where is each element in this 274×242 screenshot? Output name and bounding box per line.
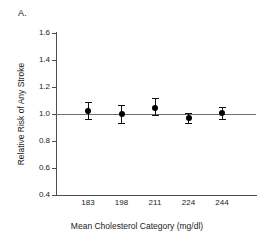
confidence-interval-cap-upper bbox=[85, 102, 92, 103]
y-axis-tick-mark bbox=[52, 114, 56, 115]
y-axis-tick-label: 1.6 bbox=[39, 29, 50, 37]
data-point-marker bbox=[186, 115, 192, 121]
confidence-interval-cap-lower bbox=[85, 119, 92, 120]
x-axis-tick-label: 244 bbox=[215, 199, 228, 207]
y-axis-tick-mark bbox=[52, 87, 56, 88]
x-axis-line bbox=[56, 195, 257, 196]
plot-area: 0.40.60.81.01.21.41.6 bbox=[56, 33, 256, 195]
y-axis-tick-mark bbox=[52, 60, 56, 61]
confidence-interval-cap-lower bbox=[118, 123, 125, 124]
confidence-interval-cap-lower bbox=[219, 119, 226, 120]
x-axis-title: Mean Cholesterol Category (mg/dl) bbox=[0, 221, 274, 231]
x-axis-tick-label: 224 bbox=[182, 199, 195, 207]
confidence-interval-cap-upper bbox=[118, 105, 125, 106]
x-axis-tick-label: 198 bbox=[115, 199, 128, 207]
y-axis-tick-label: 1.0 bbox=[39, 110, 50, 118]
data-point-marker bbox=[119, 111, 125, 117]
y-axis-tick-mark bbox=[52, 168, 56, 169]
y-axis-tick-label: 1.4 bbox=[39, 56, 50, 64]
x-axis-tick-label: 183 bbox=[81, 199, 94, 207]
data-point-marker bbox=[152, 105, 158, 111]
data-point-marker bbox=[219, 110, 225, 116]
y-axis-tick-mark bbox=[52, 195, 56, 196]
y-axis-tick-label: 1.2 bbox=[39, 83, 50, 91]
confidence-interval-cap-lower bbox=[185, 123, 192, 124]
panel-label: A. bbox=[18, 8, 27, 18]
confidence-interval-cap-upper bbox=[219, 107, 226, 108]
figure-panel-a: A. 0.40.60.81.01.21.41.6 183198211224244… bbox=[0, 0, 274, 242]
x-axis-tick-label: 211 bbox=[149, 199, 162, 207]
y-axis-tick-mark bbox=[52, 141, 56, 142]
y-axis-tick-label: 0.8 bbox=[39, 137, 50, 145]
confidence-interval-cap-upper bbox=[185, 113, 192, 114]
y-axis-tick-mark bbox=[52, 33, 56, 34]
y-axis-title: Relative Risk of Any Stroke bbox=[14, 33, 28, 195]
confidence-interval-cap-upper bbox=[152, 98, 159, 99]
y-axis-tick-label: 0.4 bbox=[39, 191, 50, 199]
y-axis-tick-label: 0.6 bbox=[39, 164, 50, 172]
confidence-interval-cap-lower bbox=[152, 115, 159, 116]
